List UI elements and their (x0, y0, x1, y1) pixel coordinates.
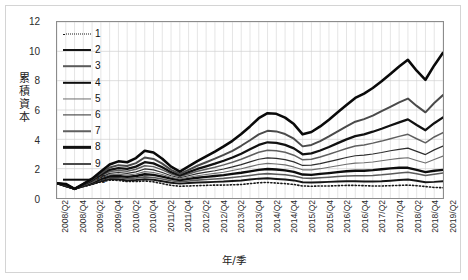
x-axis-tick-label: 2016/Q2 (342, 200, 352, 233)
legend-swatch-9 (62, 159, 92, 169)
x-axis-tick-label: 2018/Q4 (430, 200, 440, 233)
x-axis-tick-label: 2011/Q2 (166, 200, 176, 232)
plot-svg (57, 22, 443, 198)
legend-label-3: 3 (95, 61, 101, 71)
x-axis-tick-label: 2015/Q2 (307, 200, 317, 233)
cumulative-capital-line-chart: 累積資本 024681012 12345678910 2008/Q22008/Q… (0, 0, 468, 280)
y-axis-tick-label: 4 (18, 134, 40, 145)
x-axis-title: 年/季 (0, 252, 468, 267)
y-axis-tick-label: 0 (18, 194, 40, 205)
legend-item-4[interactable]: 4 (62, 75, 114, 91)
legend-swatch-3 (62, 61, 92, 71)
plot-area (56, 21, 444, 199)
legend-item-9[interactable]: 9 (62, 156, 114, 172)
legend-item-1[interactable]: 1 (62, 26, 114, 42)
legend-item-8[interactable]: 8 (62, 139, 114, 155)
x-axis-tick-label: 2014/Q4 (289, 200, 299, 233)
x-axis-tick-label: 2016/Q4 (360, 200, 370, 233)
y-axis-tick-labels: 024681012 (14, 0, 40, 280)
x-axis-tick-label: 2017/Q2 (377, 200, 387, 233)
legend-swatch-10 (62, 175, 92, 185)
legend-swatch-1 (62, 29, 92, 39)
legend-item-5[interactable]: 5 (62, 91, 114, 107)
x-axis-tick-label: 2012/Q2 (201, 200, 211, 233)
x-axis-tick-label: 2019/Q2 (448, 200, 458, 233)
legend-label-2: 2 (95, 45, 101, 55)
legend-label-4: 4 (95, 78, 101, 88)
x-axis-tick-label: 2017/Q4 (395, 200, 405, 233)
x-axis-tick-label: 2013/Q4 (254, 200, 264, 233)
x-axis-tick-label: 2010/Q4 (148, 200, 158, 233)
legend-item-10[interactable]: 10 (62, 172, 114, 188)
legend-label-8: 8 (95, 142, 101, 152)
legend-item-3[interactable]: 3 (62, 58, 114, 74)
legend-label-7: 7 (95, 126, 101, 136)
x-axis-tick-labels: 2008/Q22008/Q42009/Q22009/Q42010/Q22010/… (56, 200, 444, 258)
x-axis-tick-label: 2014/Q2 (272, 200, 282, 233)
x-axis-tick-label: 2011/Q4 (183, 200, 193, 232)
x-axis-tick-label: 2012/Q4 (219, 200, 229, 233)
legend-label-1: 1 (95, 29, 101, 39)
y-axis-tick-label: 6 (18, 105, 40, 116)
legend-label-9: 9 (95, 159, 101, 169)
legend-swatch-4 (62, 78, 92, 88)
legend-swatch-6 (62, 110, 92, 120)
legend-item-2[interactable]: 2 (62, 42, 114, 58)
legend-label-6: 6 (95, 110, 101, 120)
legend-label-5: 5 (95, 94, 101, 104)
legend-item-6[interactable]: 6 (62, 107, 114, 123)
legend-swatch-5 (62, 94, 92, 104)
legend-item-7[interactable]: 7 (62, 123, 114, 139)
y-axis-tick-label: 10 (18, 45, 40, 56)
x-axis-tick-label: 2009/Q4 (113, 200, 123, 233)
x-axis-tick-label: 2009/Q2 (95, 200, 105, 233)
x-axis-tick-label: 2008/Q2 (60, 200, 70, 233)
legend-swatch-2 (62, 45, 92, 55)
x-axis-tick-label: 2018/Q2 (413, 200, 423, 233)
chart-legend: 12345678910 (62, 24, 114, 188)
y-axis-tick-label: 2 (18, 164, 40, 175)
x-axis-tick-label: 2015/Q4 (325, 200, 335, 233)
x-axis-tick-label: 2008/Q4 (78, 200, 88, 233)
legend-label-10: 10 (95, 175, 106, 185)
legend-swatch-7 (62, 126, 92, 136)
legend-swatch-8 (62, 142, 92, 152)
y-axis-tick-label: 8 (18, 75, 40, 86)
x-axis-tick-label: 2010/Q2 (131, 200, 141, 233)
x-axis-tick-label: 2013/Q2 (236, 200, 246, 233)
y-axis-tick-label: 12 (18, 16, 40, 27)
